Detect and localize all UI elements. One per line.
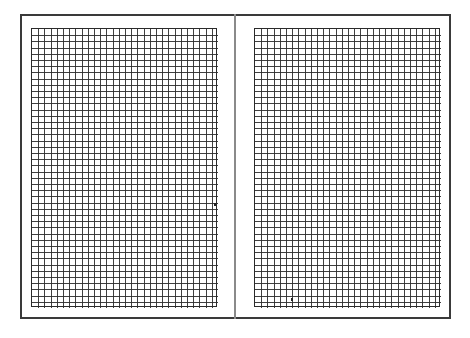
- page-divider: [234, 14, 236, 319]
- right-page-grid: [254, 28, 440, 307]
- stray-mark-right: [291, 298, 293, 301]
- stray-mark-left: [214, 203, 216, 206]
- left-page-grid: [31, 28, 217, 307]
